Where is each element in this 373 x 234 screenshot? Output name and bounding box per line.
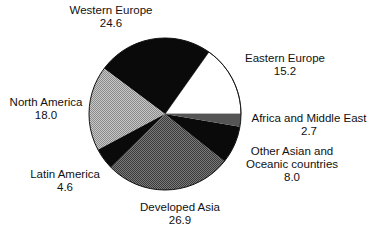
- label-north-america: North America 18.0: [10, 96, 83, 122]
- slice-name: North America: [10, 96, 83, 109]
- slice-value: 26.9: [140, 214, 220, 227]
- slice-value: 8.0: [246, 171, 338, 184]
- slice-value: 15.2: [245, 65, 325, 78]
- pie-slices: [89, 38, 241, 190]
- slice-name: Western Europe: [70, 4, 153, 17]
- label-africa-middle-east: Africa and Middle East 2.7: [251, 112, 366, 138]
- slice-name: Eastern Europe: [245, 52, 325, 65]
- slice-name-line2: Oceanic countries: [246, 158, 338, 171]
- slice-value: 24.6: [70, 17, 153, 30]
- slice-name-line1: Other Asian and: [246, 145, 338, 158]
- label-developed-asia: Developed Asia 26.9: [140, 201, 220, 227]
- slice-name: Africa and Middle East: [251, 112, 366, 125]
- slice-value: 2.7: [251, 125, 366, 138]
- slice-value: 4.6: [30, 181, 100, 194]
- slice-value: 18.0: [10, 109, 83, 122]
- slice-name: Developed Asia: [140, 201, 220, 214]
- label-eastern-europe: Eastern Europe 15.2: [245, 52, 325, 78]
- label-western-europe: Western Europe 24.6: [70, 4, 153, 30]
- slice-name: Latin America: [30, 168, 100, 181]
- label-latin-america: Latin America 4.6: [30, 168, 100, 194]
- label-other-asian-oceanic: Other Asian and Oceanic countries 8.0: [246, 145, 338, 184]
